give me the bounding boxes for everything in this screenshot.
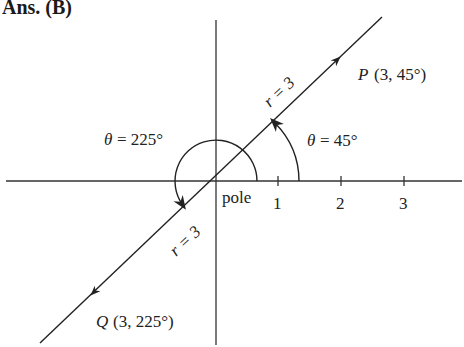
point-q-coords: (3, 225°) bbox=[113, 312, 174, 331]
tick-label-3: 3 bbox=[399, 194, 408, 213]
theta-45-symbol: θ bbox=[307, 131, 315, 150]
theta-225-value: = 225° bbox=[117, 130, 163, 149]
tick-label-2: 2 bbox=[336, 194, 345, 213]
theta-45-value: = 45° bbox=[320, 131, 358, 150]
radius-label-upper: r = 3 bbox=[260, 73, 299, 111]
point-q-letter: Q bbox=[96, 312, 108, 331]
point-p-coords: (3, 45°) bbox=[374, 65, 426, 84]
theta-225-symbol: θ bbox=[104, 130, 112, 149]
tick-label-1: 1 bbox=[273, 194, 282, 213]
pole-label: pole bbox=[222, 188, 251, 207]
polar-diagram: pole 1 2 3 P (3, 45°) Q (3, 225°) θ = 45… bbox=[0, 0, 464, 347]
point-p-letter: P bbox=[357, 65, 368, 84]
arrow-p-icon bbox=[320, 60, 337, 76]
arrow-q-icon bbox=[94, 276, 110, 292]
angle-arc-45 bbox=[275, 123, 299, 181]
radius-label-lower: r = 3 bbox=[166, 222, 205, 260]
